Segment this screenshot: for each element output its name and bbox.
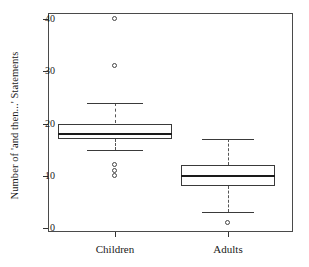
- y-tick-label-30: 30: [25, 66, 55, 76]
- y-axis-title: Number of 'and then...' Statements: [9, 26, 20, 226]
- median-line-children: [58, 133, 172, 135]
- y-tick-label-0: 0: [25, 223, 55, 233]
- whisker-lower-adults: [228, 186, 229, 212]
- y-tick-label-10: 10: [25, 171, 55, 181]
- y-tick-label-40: 40: [25, 14, 55, 24]
- whisker-cap-upper-adults: [202, 139, 254, 140]
- whisker-upper-adults: [228, 139, 229, 165]
- x-tick-adults: [228, 232, 229, 237]
- x-tick-children: [115, 232, 116, 237]
- y-tick-label-20: 20: [25, 119, 55, 129]
- whisker-lower-children: [115, 139, 116, 149]
- whisker-cap-lower-adults: [202, 212, 254, 213]
- median-line-adults: [181, 175, 275, 177]
- x-tick-label-adults: Adults: [183, 243, 273, 255]
- outlier-point: [112, 63, 117, 68]
- outlier-point: [112, 16, 117, 21]
- outlier-point: [112, 168, 117, 173]
- whisker-cap-upper-children: [87, 103, 143, 104]
- plot-frame: [48, 13, 293, 232]
- whisker-upper-children: [115, 103, 116, 124]
- outlier-point: [225, 220, 230, 225]
- box-children: [58, 124, 172, 140]
- boxplot-figure: Number of 'and then...' Statements 40 30…: [0, 0, 309, 267]
- whisker-cap-lower-children: [87, 150, 143, 151]
- outlier-point: [112, 173, 117, 178]
- x-tick-label-children: Children: [70, 243, 160, 255]
